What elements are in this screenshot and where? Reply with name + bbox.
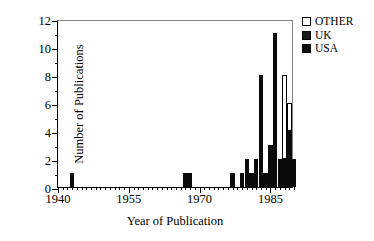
y-tick-label: 12 bbox=[39, 15, 52, 28]
y-tick-minor bbox=[55, 119, 59, 120]
x-tick-minor bbox=[237, 187, 238, 190]
legend-swatch-uk-icon bbox=[302, 31, 311, 40]
bar-segment-usa bbox=[292, 159, 296, 187]
legend-item-usa: USA bbox=[302, 43, 353, 55]
x-tick-minor bbox=[100, 187, 101, 190]
x-tick-minor bbox=[67, 187, 68, 190]
x-tick-minor bbox=[285, 187, 286, 190]
x-tick-minor bbox=[266, 187, 267, 190]
x-tick-minor bbox=[63, 187, 64, 190]
y-tick-minor bbox=[55, 35, 59, 36]
publications-bar-chart: 024681012 1940195519701985 Number of Pub… bbox=[0, 0, 374, 241]
bar-segment-usa bbox=[259, 75, 263, 187]
y-tick-major bbox=[52, 77, 58, 78]
bar-segment-usa bbox=[230, 173, 234, 187]
x-tick-minor bbox=[214, 187, 215, 190]
x-tick-minor bbox=[185, 187, 186, 190]
plot-area: 024681012 1940195519701985 bbox=[57, 20, 293, 188]
bar-segment-usa bbox=[188, 173, 192, 187]
x-tick-minor bbox=[119, 187, 120, 190]
y-tick-label: 8 bbox=[45, 71, 51, 84]
x-tick-minor bbox=[247, 187, 248, 190]
x-tick-minor bbox=[275, 187, 276, 190]
x-tick-minor bbox=[204, 187, 205, 190]
x-tick-minor bbox=[233, 187, 234, 190]
x-tick-minor bbox=[148, 187, 149, 190]
bar-segment-other bbox=[287, 103, 291, 131]
x-tick-label: 1940 bbox=[46, 193, 71, 206]
x-tick-minor bbox=[289, 187, 290, 190]
y-tick-major bbox=[52, 161, 58, 162]
bar-stack bbox=[259, 75, 263, 187]
y-tick-label: 10 bbox=[39, 43, 52, 56]
x-tick-minor bbox=[124, 187, 125, 190]
x-tick-label: 1985 bbox=[258, 193, 283, 206]
y-tick-label: 2 bbox=[45, 155, 51, 168]
x-tick-minor bbox=[223, 187, 224, 190]
y-tick-minor bbox=[55, 91, 59, 92]
y-tick-major bbox=[52, 105, 58, 106]
x-tick-minor bbox=[252, 187, 253, 190]
y-tick-major bbox=[52, 21, 58, 22]
x-tick-minor bbox=[242, 187, 243, 190]
x-tick-minor bbox=[256, 187, 257, 190]
x-tick-minor bbox=[110, 187, 111, 190]
legend-item-uk: UK bbox=[302, 30, 353, 42]
x-tick-minor bbox=[228, 187, 229, 190]
x-tick-minor bbox=[138, 187, 139, 190]
x-tick-minor bbox=[143, 187, 144, 190]
x-tick-minor bbox=[157, 187, 158, 190]
bars-layer bbox=[58, 21, 292, 187]
x-axis-title: Year of Publication bbox=[57, 214, 293, 229]
x-tick-minor bbox=[162, 187, 163, 190]
bar-stack bbox=[292, 159, 296, 187]
y-tick-minor bbox=[55, 147, 59, 148]
x-tick-minor bbox=[171, 187, 172, 190]
y-axis-title: Number of Publications bbox=[72, 20, 87, 188]
legend-label-usa: USA bbox=[315, 43, 338, 55]
y-tick-major bbox=[52, 133, 58, 134]
legend-swatch-usa-icon bbox=[302, 44, 311, 53]
bar-stack bbox=[188, 173, 192, 187]
x-tick-minor bbox=[134, 187, 135, 190]
x-tick-minor bbox=[209, 187, 210, 190]
x-tick-minor bbox=[261, 187, 262, 190]
legend-label-uk: UK bbox=[315, 30, 332, 42]
legend-label-other: OTHER bbox=[315, 16, 353, 28]
x-tick-minor bbox=[152, 187, 153, 190]
x-tick-minor bbox=[115, 187, 116, 190]
x-tick-minor bbox=[105, 187, 106, 190]
x-tick-minor bbox=[280, 187, 281, 190]
y-tick-label: 6 bbox=[45, 99, 51, 112]
x-tick-minor bbox=[176, 187, 177, 190]
x-tick-minor bbox=[190, 187, 191, 190]
x-tick-minor bbox=[91, 187, 92, 190]
x-tick-minor bbox=[96, 187, 97, 190]
legend-swatch-other-icon bbox=[302, 17, 311, 26]
x-tick-minor bbox=[195, 187, 196, 190]
legend: OTHER UK USA bbox=[302, 16, 353, 55]
legend-item-other: OTHER bbox=[302, 16, 353, 28]
x-tick-minor bbox=[167, 187, 168, 190]
y-tick-minor bbox=[55, 63, 59, 64]
x-tick-minor bbox=[218, 187, 219, 190]
x-tick-minor bbox=[181, 187, 182, 190]
y-tick-minor bbox=[55, 175, 59, 176]
y-tick-label: 4 bbox=[45, 127, 51, 140]
x-tick-minor bbox=[294, 187, 295, 190]
y-tick-major bbox=[52, 49, 58, 50]
x-tick-label: 1970 bbox=[187, 193, 212, 206]
bar-stack bbox=[230, 173, 234, 187]
x-tick-label: 1955 bbox=[116, 193, 141, 206]
